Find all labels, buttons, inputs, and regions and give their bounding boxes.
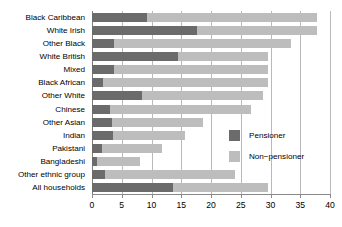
bar-row	[92, 13, 330, 22]
y-axis-label: Black Caribbean	[26, 11, 85, 24]
x-tick-5	[122, 194, 123, 198]
y-axis-label: All households	[32, 181, 85, 194]
bar-segment-pensioner	[92, 105, 110, 114]
y-axis-label: White British	[40, 50, 85, 63]
y-axis-label: Other Black	[43, 37, 85, 50]
y-axis-label: Other White	[42, 89, 85, 102]
y-axis-label: Other ethnic group	[18, 168, 85, 181]
y-axis-label: Other Asian	[43, 116, 85, 129]
x-tick-35	[300, 194, 301, 198]
bar-segment-pensioner	[92, 118, 112, 127]
y-axis-label: White Irish	[47, 24, 85, 37]
y-axis-label: Bangladeshi	[40, 155, 85, 168]
bar-segment-non-pensioner	[114, 65, 268, 74]
bar-segment-pensioner	[92, 91, 142, 100]
legend-label: Non−pensioner	[249, 149, 304, 164]
bar-segment-pensioner	[92, 183, 173, 192]
y-axis-label: Pakistani	[52, 142, 85, 155]
bar-segment-non-pensioner	[105, 170, 235, 179]
bar-segment-non-pensioner	[113, 131, 185, 140]
legend-swatch-non-pensioner	[229, 151, 240, 162]
bar-segment-non-pensioner	[142, 91, 263, 100]
bar-segment-pensioner	[92, 13, 147, 22]
y-axis-label: Black African	[38, 76, 85, 89]
bar-segment-non-pensioner	[173, 183, 268, 192]
y-axis-label: Chinese	[55, 103, 85, 116]
bar-segment-non-pensioner	[197, 26, 317, 35]
bar-segment-pensioner	[92, 65, 114, 74]
bar-segment-non-pensioner	[102, 144, 162, 153]
bar-segment-non-pensioner	[110, 105, 252, 114]
bar-row	[92, 105, 330, 114]
bar-segment-pensioner	[92, 52, 178, 61]
bar-row	[92, 118, 330, 127]
bar-row	[92, 26, 330, 35]
bar-segment-pensioner	[92, 170, 105, 179]
x-tick-label: 15	[169, 200, 193, 210]
x-tick-10	[152, 194, 153, 198]
x-tick-label: 35	[288, 200, 312, 210]
bar-segment-pensioner	[92, 39, 114, 48]
chart-legend: PensionerNon−pensioner	[229, 128, 337, 170]
x-tick-25	[241, 194, 242, 198]
bar-segment-non-pensioner	[97, 157, 140, 166]
bar-segment-pensioner	[92, 131, 113, 140]
x-tick-40	[330, 194, 331, 198]
bar-segment-non-pensioner	[103, 78, 268, 87]
bar-segment-non-pensioner	[112, 118, 204, 127]
x-tick-label: 40	[318, 200, 342, 210]
x-tick-20	[211, 194, 212, 198]
x-tick-0	[92, 194, 93, 198]
bar-row	[92, 52, 330, 61]
legend-label: Pensioner	[249, 128, 285, 143]
y-axis-label: Indian	[63, 129, 85, 142]
bar-segment-pensioner	[92, 78, 103, 87]
x-tick-label: 20	[199, 200, 223, 210]
bar-row	[92, 170, 330, 179]
bar-segment-pensioner	[92, 26, 197, 35]
bar-segment-non-pensioner	[147, 13, 317, 22]
bar-row	[92, 183, 330, 192]
bar-row	[92, 65, 330, 74]
bar-row	[92, 39, 330, 48]
y-axis-label: Mixed	[63, 63, 85, 76]
bar-segment-non-pensioner	[114, 39, 291, 48]
x-tick-label: 5	[110, 200, 134, 210]
bar-row	[92, 78, 330, 87]
x-tick-label: 10	[140, 200, 164, 210]
x-tick-30	[271, 194, 272, 198]
y-axis-category-labels: Black CaribbeanWhite IrishOther BlackWhi…	[0, 11, 89, 194]
bar-segment-pensioner	[92, 144, 102, 153]
bar-row	[92, 91, 330, 100]
x-tick-label: 25	[229, 200, 253, 210]
legend-swatch-pensioner	[229, 130, 240, 141]
bar-segment-non-pensioner	[178, 52, 268, 61]
stacked-bar-chart: Black CaribbeanWhite IrishOther BlackWhi…	[0, 0, 342, 227]
x-tick-15	[181, 194, 182, 198]
x-tick-label: 30	[259, 200, 283, 210]
x-tick-label: 0	[80, 200, 104, 210]
